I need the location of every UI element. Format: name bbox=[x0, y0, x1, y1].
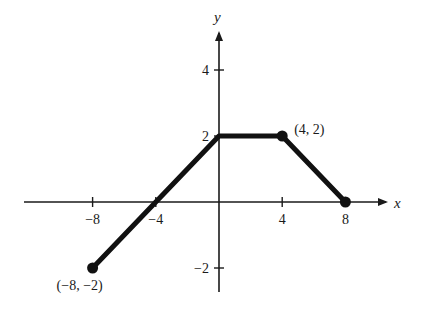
x-tick-label: 8 bbox=[342, 212, 349, 227]
y-tick-label: 4 bbox=[202, 63, 209, 78]
chart-svg: −8−448 42−2 x y (−8, −2)(4, 2) bbox=[0, 0, 430, 316]
endpoint-dot bbox=[87, 263, 98, 274]
x-tick-label: 4 bbox=[279, 212, 286, 227]
x-tick-label: −4 bbox=[148, 212, 163, 227]
x-axis-label: x bbox=[393, 195, 401, 211]
point-label: (−8, −2) bbox=[57, 278, 103, 294]
endpoint-dot bbox=[277, 131, 288, 142]
endpoint-dot bbox=[340, 197, 351, 208]
y-tick-label: 2 bbox=[202, 129, 209, 144]
point-label: (4, 2) bbox=[294, 122, 325, 138]
x-tick-label: −8 bbox=[85, 212, 100, 227]
graph-figure: −8−448 42−2 x y (−8, −2)(4, 2) bbox=[0, 0, 430, 316]
y-axis-label: y bbox=[212, 9, 221, 25]
y-tick-label: −2 bbox=[194, 261, 209, 276]
